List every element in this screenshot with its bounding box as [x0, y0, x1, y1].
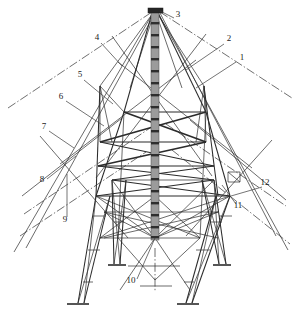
callout-label-2: 2 — [227, 33, 232, 43]
mast-column — [151, 10, 159, 240]
callout-label-11: 11 — [234, 200, 243, 210]
callout-label-5: 5 — [78, 69, 83, 79]
tower-drawing-canvas: 1 2 3 4 5 6 7 8 9 10 11 12 — [0, 0, 299, 316]
callout-label-8: 8 — [40, 174, 45, 184]
drawing-background — [0, 0, 299, 316]
callout-label-3: 3 — [176, 9, 181, 19]
callout-label-1: 1 — [240, 52, 245, 62]
callout-label-9: 9 — [63, 214, 68, 224]
callout-label-7: 7 — [42, 121, 47, 131]
callout-label-4: 4 — [95, 32, 100, 42]
callout-label-10: 10 — [127, 275, 137, 285]
technical-diagram: 1 2 3 4 5 6 7 8 9 10 11 12 — [0, 0, 299, 316]
callout-label-6: 6 — [59, 91, 64, 101]
callout-label-12: 12 — [261, 177, 270, 187]
mast-apex-cap — [148, 8, 163, 13]
